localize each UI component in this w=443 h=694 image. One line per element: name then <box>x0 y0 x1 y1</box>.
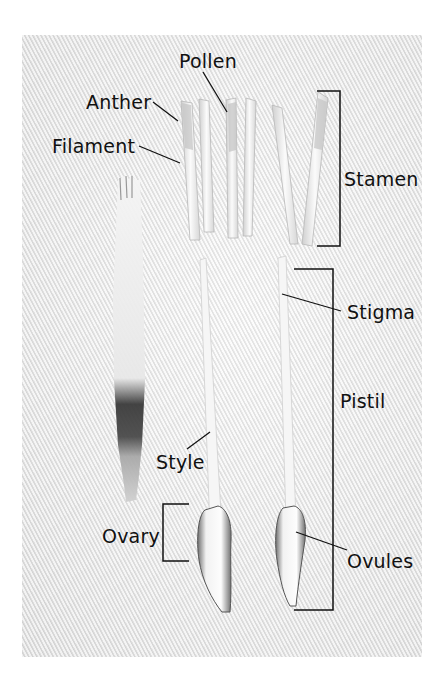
whole-flower <box>113 176 145 502</box>
stigma-leader-line <box>282 294 341 311</box>
ovary-bracket <box>163 504 189 561</box>
pistil-right <box>276 256 306 606</box>
pistil-left <box>198 258 231 612</box>
label-stigma: Stigma <box>347 302 415 322</box>
label-anther: Anther <box>86 92 151 112</box>
label-stamen: Stamen <box>344 169 419 189</box>
anther-leader-line <box>153 102 178 121</box>
label-ovules: Ovules <box>347 551 413 571</box>
label-pollen: Pollen <box>179 51 237 71</box>
label-ovary: Ovary <box>102 526 160 546</box>
label-style: Style <box>156 452 205 472</box>
stamens <box>181 92 328 246</box>
filament-leader-line <box>139 146 180 163</box>
diagram-overlay <box>0 0 443 694</box>
label-filament: Filament <box>52 136 135 156</box>
label-pistil: Pistil <box>340 391 385 411</box>
